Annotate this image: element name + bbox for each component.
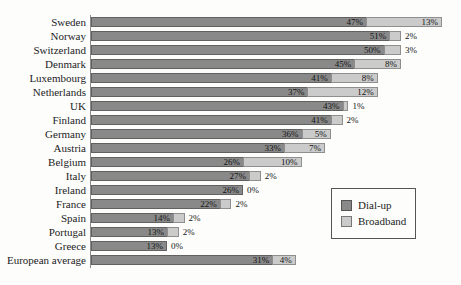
dialup-swatch-icon: [341, 200, 352, 211]
dialup-value-label: 41%: [311, 115, 331, 125]
chart-row: Belgium26%10%: [0, 155, 461, 169]
category-label: Denmark: [0, 57, 91, 71]
bar-area: 47%13%: [91, 15, 461, 29]
bar-area: 50%3%: [91, 43, 461, 57]
dialup-value-label: 22%: [200, 199, 220, 209]
chart-row: Luxembourg41%8%: [0, 71, 461, 85]
dialup-value-label: 33%: [265, 143, 285, 153]
broadband-bar-segment: 10%: [243, 157, 302, 167]
dialup-value-label: 26%: [224, 157, 244, 167]
dialup-value-label: 36%: [282, 129, 302, 139]
dialup-bar-segment: 51%: [91, 31, 389, 41]
category-label: UK: [0, 99, 91, 113]
legend-label-broadband: Broadband: [358, 215, 406, 228]
broadband-bar-segment: 5%: [302, 129, 331, 139]
broadband-value-label: 12%: [357, 87, 377, 97]
broadband-bar-segment: 8%: [331, 73, 378, 83]
chart-row: Finland41%2%: [0, 113, 461, 127]
broadband-value-label: 8%: [362, 73, 377, 83]
dialup-value-label: 50%: [364, 45, 384, 55]
category-label: Italy: [0, 169, 91, 183]
category-label: Portugal: [0, 225, 91, 239]
dialup-bar-segment: 27%: [91, 171, 249, 181]
broadband-bar-segment: [220, 199, 232, 209]
category-label: Austria: [0, 141, 91, 155]
category-label: Germany: [0, 127, 91, 141]
broadband-value-label: 7%: [309, 143, 324, 153]
broadband-value-label: 3%: [405, 45, 417, 55]
broadband-value-label: 0%: [171, 241, 183, 251]
broadband-bar-segment: [384, 45, 402, 55]
bar-area: 43%1%: [91, 99, 461, 113]
broadband-bar-segment: [389, 31, 401, 41]
dialup-value-label: 45%: [335, 59, 355, 69]
broadband-value-label: 1%: [352, 101, 364, 111]
broadband-bar-segment: 12%: [307, 87, 377, 97]
bar-area: 27%2%: [91, 169, 461, 183]
dialup-value-label: 13%: [148, 227, 168, 237]
category-label: Greece: [0, 239, 91, 253]
category-label: Finland: [0, 113, 91, 127]
dialup-bar-segment: 43%: [91, 101, 343, 111]
broadband-bar-segment: [173, 213, 185, 223]
broadband-bar-segment: [249, 171, 261, 181]
broadband-value-label: 2%: [235, 199, 247, 209]
broadband-value-label: 0%: [247, 185, 259, 195]
dialup-value-label: 27%: [229, 171, 249, 181]
dialup-value-label: 14%: [153, 213, 173, 223]
broadband-value-label: 5%: [315, 129, 330, 139]
bar-area: 37%12%: [91, 85, 461, 99]
broadband-value-label: 2%: [183, 227, 195, 237]
broadband-value-label: 2%: [265, 171, 277, 181]
bar-area: 31%4%: [91, 253, 461, 267]
chart-row: Denmark45%8%: [0, 57, 461, 71]
broadband-value-label: 8%: [385, 59, 400, 69]
dialup-bar-segment: 41%: [91, 115, 331, 125]
chart-row: Italy27%2%: [0, 169, 461, 183]
dialup-value-label: 41%: [311, 73, 331, 83]
category-label: Netherlands: [0, 85, 91, 99]
bar-area: 13%0%: [91, 239, 461, 253]
dialup-bar-segment: 45%: [91, 59, 354, 69]
broadband-swatch-icon: [341, 216, 352, 227]
legend-label-dialup: Dial-up: [358, 199, 392, 212]
bar-area: 41%8%: [91, 71, 461, 85]
broadband-bar-segment: [343, 101, 349, 111]
category-label: France: [0, 197, 91, 211]
dialup-bar-segment: 47%: [91, 17, 366, 27]
dialup-bar-segment: 26%: [91, 185, 243, 195]
broadband-value-label: 2%: [405, 31, 417, 41]
broadband-value-label: 13%: [421, 17, 441, 27]
dialup-bar-segment: 36%: [91, 129, 302, 139]
category-label: Norway: [0, 29, 91, 43]
dialup-bar-segment: 13%: [91, 227, 167, 237]
dialup-value-label: 26%: [223, 185, 243, 195]
broadband-bar-segment: 4%: [272, 255, 295, 265]
dialup-bar-segment: 14%: [91, 213, 173, 223]
dialup-bar-segment: 31%: [91, 255, 272, 265]
dialup-bar-segment: 26%: [91, 157, 243, 167]
category-label: Ireland: [0, 183, 91, 197]
dialup-value-label: 47%: [346, 17, 366, 27]
legend-entry-broadband: Broadband: [341, 215, 406, 228]
category-label: Luxembourg: [0, 71, 91, 85]
category-label: Switzerland: [0, 43, 91, 57]
bar-area: 36%5%: [91, 127, 461, 141]
chart-row: UK43%1%: [0, 99, 461, 113]
broadband-value-label: 2%: [189, 213, 201, 223]
category-label: Belgium: [0, 155, 91, 169]
dialup-value-label: 31%: [253, 255, 273, 265]
dialup-value-label: 43%: [323, 101, 343, 111]
broadband-value-label: 2%: [347, 115, 359, 125]
bar-area: 33%7%: [91, 141, 461, 155]
legend: Dial-up Broadband: [331, 188, 416, 239]
broadband-bar-segment: 13%: [366, 17, 442, 27]
dialup-bar-segment: 41%: [91, 73, 331, 83]
dialup-bar-segment: 22%: [91, 199, 220, 209]
broadband-value-label: 10%: [281, 157, 301, 167]
category-label: Sweden: [0, 15, 91, 29]
dialup-value-label: 51%: [370, 31, 390, 41]
legend-entry-dialup: Dial-up: [341, 199, 406, 212]
dialup-value-label: 37%: [288, 87, 308, 97]
broadband-value-label: 4%: [280, 255, 295, 265]
